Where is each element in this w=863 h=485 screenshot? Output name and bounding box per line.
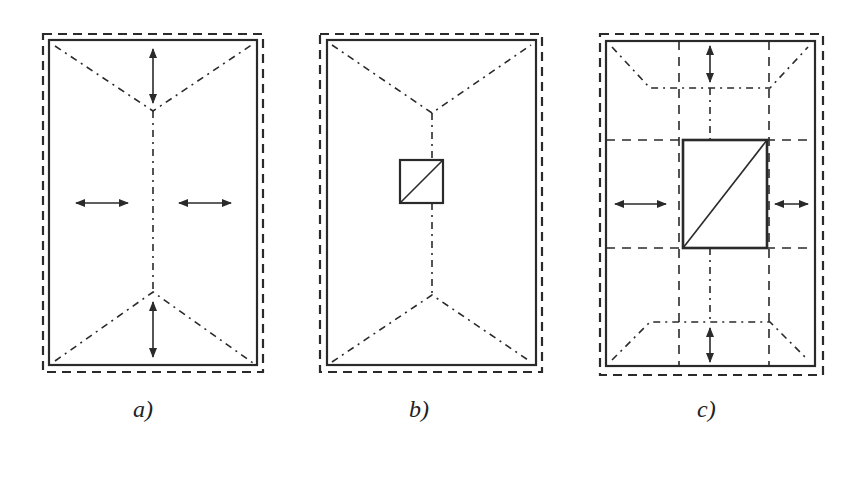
panel-b — [320, 34, 542, 372]
small-opening — [400, 160, 443, 203]
large-opening — [683, 140, 767, 248]
panel-a — [43, 34, 263, 372]
panel-a-label: a) — [133, 396, 153, 423]
figure-canvas — [0, 0, 863, 485]
panel-c-label: c) — [697, 396, 716, 423]
panel-c — [600, 34, 823, 375]
panel-b-label: b) — [409, 396, 429, 423]
